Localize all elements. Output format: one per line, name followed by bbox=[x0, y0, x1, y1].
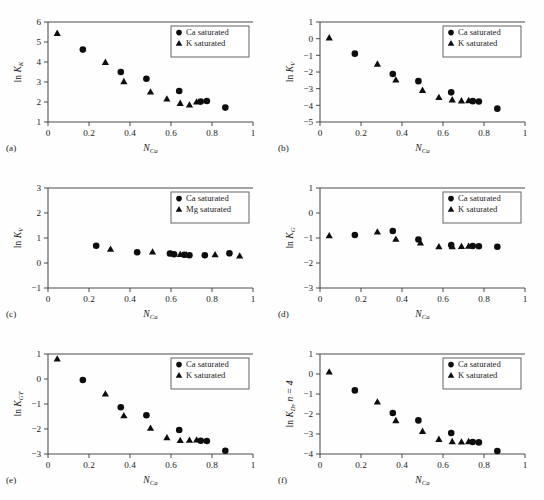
legend-marker-circle bbox=[176, 362, 182, 368]
data-point-triangle bbox=[449, 438, 456, 444]
y-tick-label: −3 bbox=[303, 429, 313, 439]
x-axis-ticks-d: 00.20.40.60.81 bbox=[318, 288, 528, 304]
y-tick-label: 3 bbox=[36, 183, 41, 193]
x-tick-label: 0.8 bbox=[478, 294, 490, 304]
data-point-triangle bbox=[449, 96, 456, 102]
data-point-triangle bbox=[326, 232, 333, 238]
legend-label: Ca saturated bbox=[458, 359, 501, 369]
legend-a: Ca saturatedK saturated bbox=[171, 26, 249, 57]
chart-panel-a: 00.20.40.60.81123456NCaln KKCa saturated… bbox=[0, 2, 272, 168]
data-point-triangle bbox=[177, 100, 184, 106]
chart-panel-f: 00.20.40.60.81−4−3−2−101NCaln KD, n = 4C… bbox=[272, 334, 544, 500]
data-point-circle bbox=[476, 439, 483, 446]
data-point-circle bbox=[415, 417, 422, 424]
legend-marker-circle bbox=[176, 196, 182, 202]
legend-label: K saturated bbox=[458, 38, 498, 48]
data-point-circle bbox=[389, 410, 396, 417]
data-point-circle bbox=[176, 427, 183, 434]
y-axis-ticks-a: 123456 bbox=[36, 17, 48, 127]
figure-panel-grid: 00.20.40.60.81123456NCaln KKCa saturated… bbox=[0, 0, 544, 500]
legend-label: K saturated bbox=[186, 370, 226, 380]
data-point-triangle bbox=[419, 87, 426, 93]
x-tick-label: 0 bbox=[318, 128, 323, 138]
x-tick-label: 0.2 bbox=[355, 128, 367, 138]
x-tick-label: 0.4 bbox=[396, 294, 408, 304]
y-axis-ticks-c: −10123 bbox=[31, 183, 48, 293]
data-point-triangle bbox=[147, 88, 154, 94]
x-axis-ticks-b: 00.20.40.60.81 bbox=[318, 122, 528, 138]
x-axis-title-d: NCa bbox=[414, 308, 430, 320]
y-tick-label: −3 bbox=[303, 283, 313, 293]
y-tick-label: −3 bbox=[31, 449, 41, 459]
x-tick-label: 0.8 bbox=[206, 128, 218, 138]
data-point-triangle bbox=[326, 368, 333, 374]
x-tick-label: 1 bbox=[523, 128, 528, 138]
legend-label: Ca saturated bbox=[186, 359, 229, 369]
legend-label: Ca saturated bbox=[186, 27, 229, 37]
x-axis-title-f: NCa bbox=[414, 474, 430, 486]
series-ca-d bbox=[352, 228, 501, 250]
data-point-circle bbox=[226, 250, 233, 257]
x-tick-label: 0.2 bbox=[355, 294, 367, 304]
data-point-triangle bbox=[211, 251, 218, 257]
chart-panel-e: 00.20.40.60.81−3−2−101NCaln KGTCa satura… bbox=[0, 334, 272, 500]
x-tick-label: 0.8 bbox=[206, 460, 218, 470]
y-tick-label: −2 bbox=[303, 67, 313, 77]
data-point-circle bbox=[476, 98, 483, 105]
data-point-triangle bbox=[374, 228, 381, 234]
data-point-circle bbox=[93, 242, 100, 249]
data-point-circle bbox=[448, 89, 455, 96]
y-tick-label: 1 bbox=[308, 183, 313, 193]
data-point-circle bbox=[176, 88, 183, 95]
data-point-triangle bbox=[102, 390, 109, 396]
x-tick-label: 1 bbox=[523, 294, 528, 304]
x-tick-label: 1 bbox=[523, 460, 528, 470]
y-tick-label: −1 bbox=[303, 233, 313, 243]
data-point-triangle bbox=[54, 355, 61, 361]
x-axis-title-b: NCa bbox=[414, 142, 430, 154]
x-tick-label: 1 bbox=[251, 294, 256, 304]
data-point-triangle bbox=[435, 436, 442, 442]
panel-letter-d: (d) bbox=[278, 309, 289, 319]
data-point-triangle bbox=[177, 437, 184, 443]
y-tick-label: 0 bbox=[308, 369, 313, 379]
y-axis-ticks-f: −4−3−2−101 bbox=[303, 349, 320, 459]
legend-e: Ca saturatedK saturated bbox=[171, 358, 249, 389]
x-tick-label: 0 bbox=[318, 294, 323, 304]
x-tick-label: 0.4 bbox=[396, 460, 408, 470]
x-tick-label: 0 bbox=[46, 128, 51, 138]
legend-label: Ca saturated bbox=[458, 193, 501, 203]
panel-letter-a: (a) bbox=[6, 143, 16, 153]
x-axis-ticks-f: 00.20.40.60.81 bbox=[318, 454, 528, 470]
x-axis-title-e: NCa bbox=[142, 474, 158, 486]
x-tick-label: 0.4 bbox=[124, 128, 136, 138]
chart-panel-d: 00.20.40.60.81−3−2−101NCaln KGCa saturat… bbox=[272, 168, 544, 334]
legend-label: Ca saturated bbox=[458, 27, 501, 37]
y-axis-title-e: ln KGT bbox=[12, 390, 24, 416]
y-tick-label: −1 bbox=[303, 51, 313, 61]
legend-c: Ca saturatedMg saturated bbox=[171, 192, 249, 223]
y-tick-label: 0 bbox=[308, 208, 313, 218]
data-point-circle bbox=[415, 78, 422, 85]
x-tick-label: 0.2 bbox=[355, 460, 367, 470]
x-axis-ticks-c: 00.20.40.60.81 bbox=[46, 288, 256, 304]
legend-label: Mg saturated bbox=[186, 204, 232, 214]
x-tick-label: 0.8 bbox=[478, 460, 490, 470]
data-point-triangle bbox=[186, 436, 193, 442]
x-tick-label: 1 bbox=[251, 128, 256, 138]
x-tick-label: 0 bbox=[46, 460, 51, 470]
y-axis-title-f: ln KD, n = 4 bbox=[284, 380, 296, 427]
legend-b: Ca saturatedK saturated bbox=[443, 26, 521, 57]
y-tick-label: 0 bbox=[308, 34, 313, 44]
data-point-circle bbox=[494, 243, 501, 250]
data-point-circle bbox=[80, 46, 87, 53]
data-point-circle bbox=[202, 252, 209, 259]
y-tick-label: −3 bbox=[303, 84, 313, 94]
series-ca-f bbox=[352, 387, 501, 454]
y-axis-title-b: ln KV bbox=[284, 61, 296, 82]
data-point-triangle bbox=[54, 30, 61, 36]
data-point-triangle bbox=[163, 95, 170, 101]
data-point-circle bbox=[80, 377, 87, 384]
y-tick-label: 2 bbox=[36, 97, 41, 107]
x-tick-label: 0.2 bbox=[83, 128, 95, 138]
